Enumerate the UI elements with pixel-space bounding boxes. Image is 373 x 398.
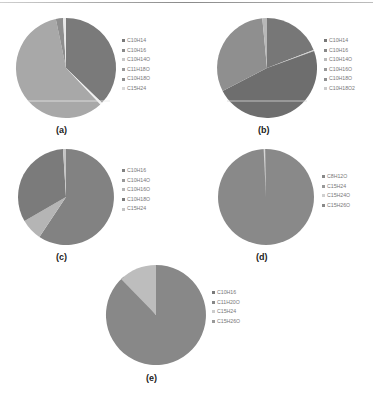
legend-item: C10H16 [122,166,150,176]
legend-item: C10H16 [122,46,150,56]
legend-item: C15H24 [122,84,150,94]
pie-panel-b: C10H14 C10H16 C10H14O C10H16O C10H18O C1… [186,0,373,140]
legend-item: C10H14 [324,36,355,46]
legend-c: C10H16 C10H14O C10H16O C10H18O C15H24 [122,166,150,214]
legend-item: C10H16 [324,46,355,56]
legend-item: C10H16 [212,288,240,298]
legend-item: C10H18O [122,74,150,84]
legend-item: C15H26O [212,317,240,327]
pie-panel-e: C10H16 C11H20O C15H24 C15H26O (e) [90,255,290,398]
pie-chart-c [0,135,186,265]
legend-item: C10H14O [122,176,150,186]
legend-item: C10H18O [122,195,150,205]
legend-item: C8H12O [322,172,350,182]
pie-chart-e [90,255,290,398]
legend-item: C15H24 [212,307,240,317]
pie-panel-c: C10H16 C10H14O C10H16O C10H18O C15H24 (c… [0,135,186,265]
caption-c: (c) [56,252,67,262]
legend-item: C10H16O [324,65,355,75]
legend-item: C10H16O [122,185,150,195]
legend-item: C10H14O [122,55,150,65]
legend-item: C10H14 [122,36,150,46]
pie-panel-a: C10H14 C10H16 C10H14O C11H18O C10H18O C1… [0,0,186,140]
legend-a: C10H14 C10H16 C10H14O C11H18O C10H18O C1… [122,36,150,94]
pie-panel-d: C8H12O C15H24 C15H24O C15H26O (d) [186,135,373,265]
caption-b: (b) [258,125,270,135]
pie-chart-a [0,0,186,140]
legend-item: C10H14O [324,55,355,65]
legend-item: C10H18O2 [324,84,355,94]
legend-e: C10H16 C11H20O C15H24 C15H26O [212,288,240,326]
legend-item: C15H24 [122,204,150,214]
caption-a: (a) [56,125,67,135]
legend-b: C10H14 C10H16 C10H14O C10H16O C10H18O C1… [324,36,355,94]
legend-item: C15H26O [322,201,350,211]
legend-item: C15H24O [322,191,350,201]
legend-item: C15H24 [322,182,350,192]
pie-a-slices [16,18,116,118]
legend-item: C11H18O [122,65,150,75]
legend-item: C10H18O [324,74,355,84]
caption-e: (e) [146,373,157,383]
legend-d: C8H12O C15H24 C15H24O C15H26O [322,172,350,210]
legend-item: C11H20O [212,298,240,308]
